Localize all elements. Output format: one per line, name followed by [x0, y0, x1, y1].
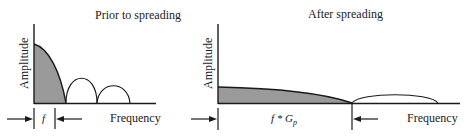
- y-axis-label: Amplitude: [201, 38, 216, 89]
- main-lobe: [34, 44, 66, 103]
- spread-bandwidth-sub: p: [293, 118, 297, 127]
- y-axis-label: Amplitude: [17, 38, 32, 89]
- bandwidth-label: f: [42, 113, 45, 124]
- spread-main-lobe: [218, 87, 352, 103]
- x-axis-label: Frequency: [110, 112, 161, 124]
- spectrum-diagram: [0, 0, 467, 139]
- arrow-left-icon: [353, 116, 378, 122]
- arrow-right-icon: [191, 116, 217, 122]
- spread-bandwidth-label: f * Gp: [271, 113, 297, 127]
- side-lobe-2: [97, 86, 130, 103]
- arrow-right-icon: [7, 116, 33, 122]
- spread-side-lobe: [352, 95, 438, 103]
- side-lobe-1: [66, 78, 97, 103]
- arrow-left-icon: [56, 116, 82, 122]
- spread-bandwidth-base: f * G: [271, 112, 293, 124]
- panel-title-prior: Prior to spreading: [95, 9, 181, 21]
- panel-title-after: After spreading: [308, 8, 383, 20]
- x-axis-label: Frequency: [407, 112, 458, 124]
